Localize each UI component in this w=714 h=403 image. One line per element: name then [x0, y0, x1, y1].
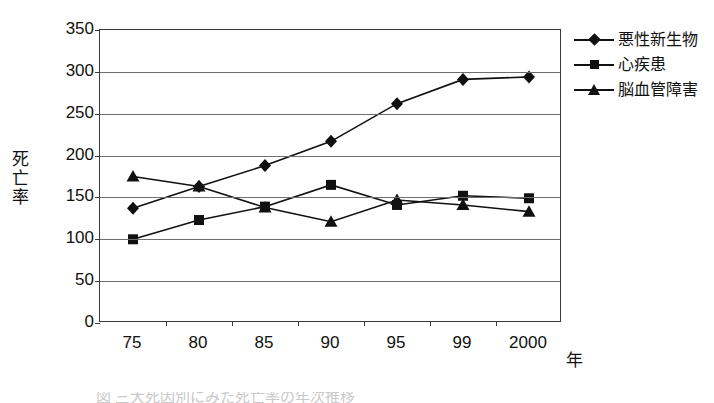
data-point-square-marker	[194, 215, 204, 225]
gridline	[100, 114, 560, 115]
series-line	[133, 185, 529, 239]
data-point-triangle-marker	[127, 170, 140, 182]
x-tick-label: 80	[189, 334, 208, 352]
gridline	[100, 239, 560, 240]
x-tick-mark	[232, 321, 233, 326]
legend-marker-square	[590, 60, 599, 69]
x-tick-mark	[430, 321, 431, 326]
legend-item[interactable]: 心疾患	[574, 52, 714, 77]
y-tick-mark	[95, 72, 100, 73]
y-axis-tick-labels: 350300250200150100500	[28, 0, 94, 403]
legend-triangle-icon	[574, 82, 614, 98]
data-point-diamond-marker	[127, 202, 139, 215]
legend-marker-triangle	[588, 84, 600, 95]
y-tick-mark	[95, 114, 100, 115]
legend-square-icon	[574, 57, 614, 73]
y-tick-mark	[95, 323, 100, 324]
x-tick-label: 2000	[509, 334, 547, 352]
data-point-diamond-marker	[457, 73, 469, 86]
y-tick-mark	[95, 197, 100, 198]
figure-caption: 図 三大死因別にみた死亡率の年次推移	[96, 392, 566, 403]
data-point-diamond-marker	[391, 97, 403, 110]
y-tick-mark	[95, 30, 100, 31]
gridline	[100, 197, 560, 198]
x-tick-mark	[364, 321, 365, 326]
x-tick-label: 95	[387, 334, 406, 352]
mortality-rate-line-chart: 死亡率 350300250200150100500 75808590959920…	[0, 0, 714, 403]
legend-item-label: 心疾患	[614, 56, 666, 73]
y-tick-label: 150	[32, 187, 94, 204]
y-tick-label: 50	[32, 271, 94, 288]
legend-item[interactable]: 悪性新生物	[574, 27, 714, 52]
legend-item-label: 脳血管障害	[614, 81, 698, 98]
y-tick-label: 100	[32, 229, 94, 246]
legend-item-label: 悪性新生物	[614, 31, 698, 48]
gridline	[100, 156, 560, 157]
figure-caption-text: 図 三大死因別にみた死亡率の年次推移	[96, 392, 566, 403]
data-point-square-marker	[326, 180, 336, 190]
x-axis-tick-labels: 7580859095992000	[99, 334, 561, 358]
y-tick-mark	[95, 156, 100, 157]
x-axis-title: 年	[566, 352, 583, 370]
data-point-diamond-marker	[325, 135, 337, 148]
series-layer	[100, 30, 562, 323]
x-tick-mark	[298, 321, 299, 326]
x-tick-label: 75	[123, 334, 142, 352]
x-tick-label: 85	[255, 334, 274, 352]
y-tick-mark	[95, 239, 100, 240]
legend-diamond-icon	[574, 32, 614, 48]
y-tick-mark	[95, 281, 100, 282]
x-tick-label: 99	[453, 334, 472, 352]
y-tick-label: 300	[32, 62, 94, 79]
legend-item[interactable]: 脳血管障害	[574, 77, 714, 102]
x-tick-mark	[496, 321, 497, 326]
legend: 悪性新生物心疾患脳血管障害	[574, 27, 714, 102]
legend-marker-diamond	[588, 33, 601, 46]
gridline	[100, 72, 560, 73]
data-point-diamond-marker	[259, 159, 271, 172]
x-tick-label: 90	[321, 334, 340, 352]
x-tick-mark	[166, 321, 167, 326]
y-tick-label: 0	[32, 313, 94, 330]
plot-area	[99, 29, 561, 322]
gridline	[100, 281, 560, 282]
data-point-triangle-marker	[391, 193, 404, 205]
y-tick-label: 350	[32, 20, 94, 37]
y-tick-label: 250	[32, 104, 94, 121]
y-tick-label: 200	[32, 146, 94, 163]
